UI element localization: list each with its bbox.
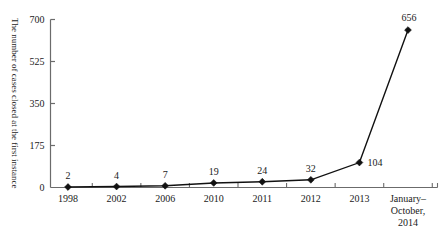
x-axis-tick-label-line: 2010	[204, 193, 224, 204]
x-axis-tick-label-line: 2011	[252, 193, 272, 204]
data-point-value-label: 656	[402, 12, 417, 23]
data-point-value-label: 104	[367, 157, 382, 168]
x-axis-tick-label-line: 2013	[349, 193, 369, 204]
data-point-marker[interactable]	[405, 27, 412, 34]
y-axis-tick-label: 0	[40, 182, 45, 193]
chart-figure: 0175350525700199820022006201020112012201…	[0, 0, 447, 239]
data-point-marker[interactable]	[259, 178, 266, 185]
data-point-marker[interactable]	[356, 159, 363, 166]
data-point-marker[interactable]	[65, 184, 72, 191]
y-axis-tick-label: 700	[30, 14, 45, 25]
x-axis-tick-label-line: January–	[390, 193, 427, 204]
data-point-value-label: 7	[163, 169, 168, 180]
data-point-value-label: 32	[306, 163, 316, 174]
x-axis-tick-label: 2012	[301, 193, 321, 204]
x-axis-tick-label: 1998	[58, 193, 78, 204]
x-axis-tick-label: 2010	[204, 193, 224, 204]
x-axis-tick-label: 2006	[155, 193, 175, 204]
data-point-marker[interactable]	[307, 176, 314, 183]
x-axis-tick-label: 2011	[252, 193, 272, 204]
x-axis-tick-label-line: 2012	[301, 193, 321, 204]
data-point-value-label: 4	[114, 170, 119, 181]
data-point-marker[interactable]	[162, 182, 169, 189]
data-point-value-label: 24	[257, 165, 267, 176]
x-axis-tick-label-line: 2006	[155, 193, 175, 204]
data-point-marker[interactable]	[210, 180, 217, 187]
x-axis-tick-label: 2002	[107, 193, 127, 204]
x-axis-tick-label-line: 2014	[398, 217, 418, 228]
x-axis-tick-label: 2013	[349, 193, 369, 204]
x-axis-tick-label-line: October,	[391, 205, 425, 216]
line-chart-canvas: 0175350525700199820022006201020112012201…	[0, 0, 447, 239]
x-axis-tick-label-line: 2002	[107, 193, 127, 204]
data-point-marker[interactable]	[113, 183, 120, 190]
y-axis-tick-label: 350	[30, 98, 45, 109]
x-axis-tick-label-line: 1998	[58, 193, 78, 204]
data-point-value-label: 19	[209, 166, 219, 177]
y-axis-tick-label: 175	[30, 140, 45, 151]
data-point-value-label: 2	[66, 170, 71, 181]
x-axis-tick-label: January–October,2014	[390, 193, 427, 228]
y-axis-tick-label: 525	[30, 56, 45, 67]
y-axis-title: The number of cases closed at the first …	[10, 18, 20, 188]
